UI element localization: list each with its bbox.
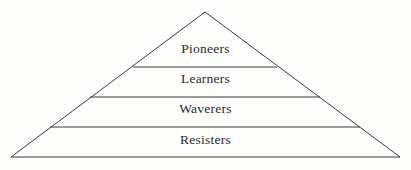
- tier-label-learners: Learners: [0, 72, 411, 86]
- tier-label-waverers: Waverers: [0, 102, 411, 116]
- pyramid-figure: Pioneers Learners Waverers Resisters: [0, 0, 411, 170]
- tier-label-resisters: Resisters: [0, 133, 411, 147]
- tier-label-pioneers: Pioneers: [0, 42, 411, 56]
